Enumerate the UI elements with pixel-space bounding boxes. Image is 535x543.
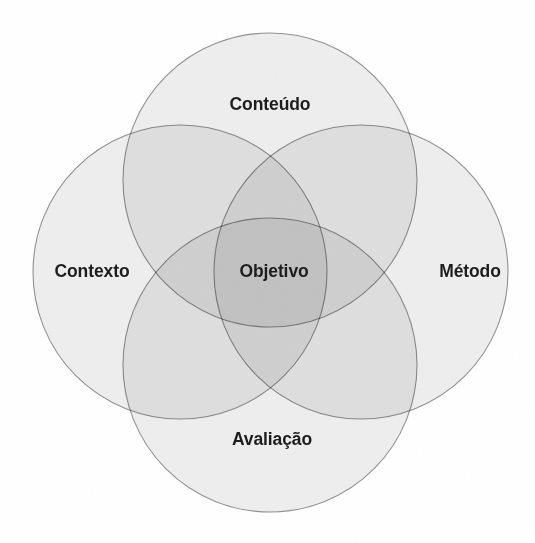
venn-label-objetivo: Objetivo xyxy=(239,261,308,281)
venn-label-avaliacao: Avaliação xyxy=(232,429,312,449)
venn-diagram: Conteúdo Contexto Método Avaliação Objet… xyxy=(0,0,535,543)
venn-label-conteudo: Conteúdo xyxy=(230,94,311,114)
venn-diagram-canvas: Conteúdo Contexto Método Avaliação Objet… xyxy=(0,0,535,543)
venn-label-metodo: Método xyxy=(439,261,501,281)
venn-label-contexto: Contexto xyxy=(54,261,129,281)
